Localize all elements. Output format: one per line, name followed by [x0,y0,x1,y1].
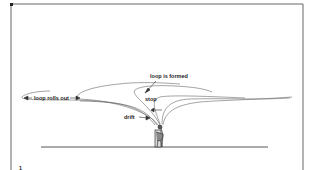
corner-mark [10,3,13,6]
label-drift: drift [124,114,135,120]
caster-figure-icon [155,125,163,147]
label-stop: stop [145,96,157,102]
label-loop-rolls-out: loop rolls out [34,95,69,101]
fly-line-paths [22,83,292,125]
casting-loop-diagram: loop is formed loop rolls out stop drift… [0,0,311,170]
figure-number: 1 [19,165,22,170]
label-loop-is-formed: loop is formed [150,73,188,79]
